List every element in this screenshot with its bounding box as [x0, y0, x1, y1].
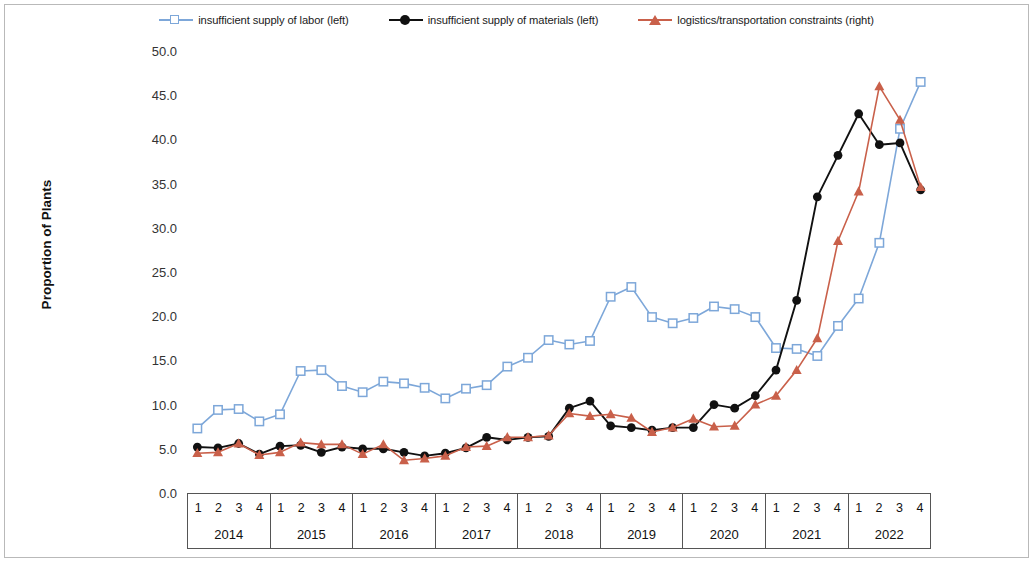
x-axis-year-group: 12342016: [353, 494, 436, 548]
y-tick-label: 30.0: [152, 220, 177, 235]
x-axis-year-group: 12342020: [683, 494, 766, 548]
data-point-marker: [792, 296, 801, 305]
data-point-marker: [420, 384, 428, 392]
x-tick-label-quarter: 3: [807, 501, 827, 515]
x-tick-label-year: 2015: [271, 522, 353, 548]
x-tick-label-quarter: 4: [827, 501, 847, 515]
x-axis-quarter-row: 1234: [271, 494, 353, 522]
data-point-marker: [627, 283, 635, 291]
data-point-marker: [317, 366, 325, 374]
data-point-marker: [627, 423, 636, 432]
x-tick-label-year: 2014: [188, 522, 270, 548]
x-axis-quarter-row: 1234: [436, 494, 518, 522]
x-tick-label-quarter: 2: [291, 501, 311, 515]
x-tick-label-quarter: 1: [353, 501, 373, 515]
y-tick-label: 45.0: [152, 88, 177, 103]
y-tick-label: 15.0: [152, 353, 177, 368]
y-tick-label: 0.0: [159, 486, 177, 501]
filled-triangle-icon: [638, 13, 672, 27]
data-point-marker: [730, 305, 738, 313]
legend-item-logistics: logistics/transportation constraints (ri…: [638, 13, 873, 27]
x-axis-year-group: 12342015: [271, 494, 354, 548]
legend-item-materials: insufficient supply of materials (left): [389, 13, 599, 27]
plot-area: 50.045.040.035.030.025.020.015.010.05.00…: [187, 51, 931, 493]
series-logistics: [192, 81, 925, 464]
x-axis-year-group: 12342022: [849, 494, 931, 548]
x-tick-label-quarter: 4: [662, 501, 682, 515]
data-point-marker: [338, 382, 346, 390]
data-point-marker: [214, 406, 222, 414]
x-tick-label-quarter: 3: [311, 501, 331, 515]
x-axis-year-group: 12342014: [188, 494, 271, 548]
x-axis: 1234201412342015123420161234201712342018…: [187, 493, 931, 549]
series-materials: [193, 109, 925, 460]
x-tick-label-quarter: 1: [271, 501, 291, 515]
data-point-marker: [854, 294, 862, 302]
data-point-marker: [854, 186, 864, 195]
data-point-marker: [441, 394, 449, 402]
data-point-marker: [586, 337, 594, 345]
filled-circle-icon: [389, 13, 423, 27]
x-tick-label-year: 2016: [353, 522, 435, 548]
data-point-marker: [772, 366, 781, 375]
x-tick-label-quarter: 2: [208, 501, 228, 515]
data-point-marker: [586, 397, 595, 406]
y-tick-label: 5.0: [159, 441, 177, 456]
x-axis-quarter-row: 1234: [601, 494, 683, 522]
data-point-marker: [875, 140, 884, 149]
data-point-marker: [296, 367, 304, 375]
data-point-marker: [503, 362, 511, 370]
data-point-marker: [358, 388, 366, 396]
data-point-marker: [813, 352, 821, 360]
x-tick-label-quarter: 4: [579, 501, 599, 515]
legend-label-materials: insufficient supply of materials (left): [428, 14, 599, 26]
data-point-marker: [751, 313, 759, 321]
data-point-marker: [710, 302, 718, 310]
data-point-marker: [378, 439, 388, 448]
hollow-square-icon: [159, 13, 193, 27]
x-tick-label-quarter: 2: [786, 501, 806, 515]
x-tick-label-quarter: 3: [642, 501, 662, 515]
x-axis-quarter-row: 1234: [849, 494, 931, 522]
x-tick-label-quarter: 2: [374, 501, 394, 515]
x-tick-label-quarter: 4: [414, 501, 434, 515]
y-tick-label: 35.0: [152, 176, 177, 191]
data-point-marker: [751, 391, 760, 400]
x-axis-quarter-row: 1234: [188, 494, 270, 522]
x-tick-label-quarter: 2: [456, 501, 476, 515]
x-axis-quarter-row: 1234: [683, 494, 765, 522]
x-tick-label-quarter: 3: [889, 501, 909, 515]
y-tick-label: 10.0: [152, 397, 177, 412]
x-axis-year-group: 12342019: [601, 494, 684, 548]
x-tick-label-quarter: 1: [436, 501, 456, 515]
x-tick-label-quarter: 4: [249, 501, 269, 515]
data-point-marker: [730, 404, 739, 413]
data-point-marker: [792, 365, 802, 374]
data-point-marker: [834, 322, 842, 330]
x-tick-label-quarter: 1: [188, 501, 208, 515]
data-point-marker: [896, 139, 905, 148]
data-point-marker: [400, 379, 408, 387]
data-point-marker: [193, 424, 201, 432]
x-tick-label-quarter: 2: [539, 501, 559, 515]
data-point-marker: [379, 377, 387, 385]
data-point-marker: [606, 409, 616, 418]
x-axis-quarter-row: 1234: [353, 494, 435, 522]
x-tick-label-year: 2022: [849, 522, 931, 548]
data-point-marker: [276, 410, 284, 418]
x-tick-label-quarter: 3: [724, 501, 744, 515]
chart-figure: insufficient supply of labor (left) insu…: [4, 4, 1029, 558]
data-point-marker: [792, 345, 800, 353]
series-labor: [193, 78, 925, 433]
legend-label-logistics: logistics/transportation constraints (ri…: [677, 14, 873, 26]
data-point-marker: [234, 405, 242, 413]
data-point-marker: [317, 448, 326, 457]
data-point-marker: [916, 78, 924, 86]
y-tick-label: 50.0: [152, 44, 177, 59]
x-tick-label-quarter: 4: [332, 501, 352, 515]
x-axis-quarter-row: 1234: [766, 494, 848, 522]
x-tick-label-quarter: 1: [518, 501, 538, 515]
y-tick-label: 20.0: [152, 309, 177, 324]
x-tick-label-quarter: 3: [559, 501, 579, 515]
x-axis-quarter-row: 1234: [518, 494, 600, 522]
